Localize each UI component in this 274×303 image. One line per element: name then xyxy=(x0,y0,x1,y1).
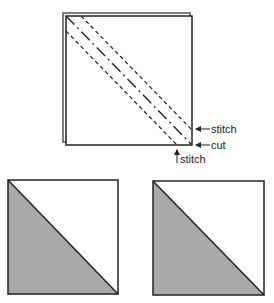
half-square-triangle-right xyxy=(153,181,264,295)
upper-stitch-callout: stitch xyxy=(196,123,237,135)
stacked-squares xyxy=(63,13,192,145)
half-square-triangle-left xyxy=(8,180,118,294)
lower-stitch-label: stitch xyxy=(180,153,206,165)
cut-label: cut xyxy=(211,139,226,151)
cut-callout: cut xyxy=(196,139,226,151)
lower-stitch-callout: stitch xyxy=(177,150,206,165)
upper-stitch-label: stitch xyxy=(211,123,237,135)
quilting-diagram: stitch cut stitch xyxy=(0,0,274,303)
